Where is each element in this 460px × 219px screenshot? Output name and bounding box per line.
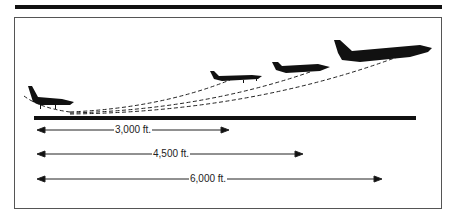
distance-label-4500: 4,500 ft. xyxy=(152,148,190,159)
airplane-icon-airliner xyxy=(334,40,432,62)
airplane-icon-business-jet xyxy=(272,62,330,73)
airplane-icon-light-twin xyxy=(210,71,262,83)
airplane-icon-small xyxy=(28,86,74,109)
runway-bar xyxy=(34,116,416,120)
takeoff-distance-diagram xyxy=(0,0,460,219)
distance-label-6000: 6,000 ft. xyxy=(189,173,227,184)
distance-label-3000: 3,000 ft. xyxy=(114,124,152,135)
climb-paths xyxy=(24,56,400,114)
climb-path-large xyxy=(70,56,400,114)
